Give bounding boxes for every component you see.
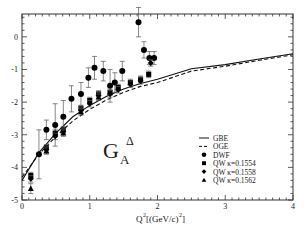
annotation-G: G [103,138,119,163]
data-point [100,61,106,81]
data-point [91,56,97,79]
data-point [78,83,84,106]
data-point [141,42,147,58]
x-axis-label: Q 2 [(GeV/c) 2 ] [136,212,185,224]
data-point [68,86,74,112]
legend-label: QW κ=0.1562 [213,176,256,185]
svg-text:]: ] [182,214,185,224]
legend-item: QW κ=0.1562 [202,176,256,185]
data-point [85,68,91,88]
data-point [43,120,49,140]
annotation-superscript: Δ [126,134,134,148]
data-point [28,184,34,194]
svg-text:[(GeV/c): [(GeV/c) [146,214,178,224]
x-tick-label: 0 [20,202,24,211]
y-tick-label: 0 [14,33,18,42]
y-tick-label: -1 [11,65,18,74]
x-tick-label: 1 [88,202,92,211]
chart: 012340-1-2-3-4-5 GBEOGEDWFQW κ=0.1554QW … [0,0,304,229]
data-point [136,7,142,36]
annotation-subscript: A [120,152,130,167]
data-point [146,71,151,78]
x-tick-label: 4 [291,202,295,211]
legend: GBEOGEDWFQW κ=0.1554QW κ=0.1558QW κ=0.15… [199,134,256,185]
y-tick-label: -5 [11,196,18,205]
y-tick-label: -2 [11,98,18,107]
data-point [119,61,125,81]
y-tick-label: -3 [11,131,18,140]
y-tick-label: -4 [11,163,18,172]
data-point [36,130,42,179]
x-tick-label: 3 [223,202,227,211]
svg-text:Q: Q [136,214,143,224]
data-points [28,7,157,193]
x-tick-label: 2 [156,202,160,211]
